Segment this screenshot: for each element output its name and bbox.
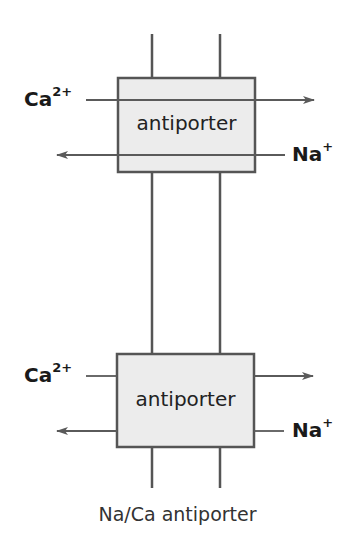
diagram-caption: Na/Ca antiporter (0, 503, 355, 525)
top-na-ion-label: Na+ (292, 141, 333, 166)
na-ca-antiporter-diagram: Ca2+ antiporter Na+ Ca2+ antiporter Na+ … (0, 0, 355, 552)
bottom-na-ion-label: Na+ (292, 417, 333, 442)
diagram-lines (0, 0, 355, 552)
bottom-antiporter-label: antiporter (117, 387, 254, 411)
bottom-ca-ion-label: Ca2+ (24, 362, 72, 387)
top-ca-ion-label: Ca2+ (24, 86, 72, 111)
top-antiporter-label: antiporter (118, 111, 255, 135)
